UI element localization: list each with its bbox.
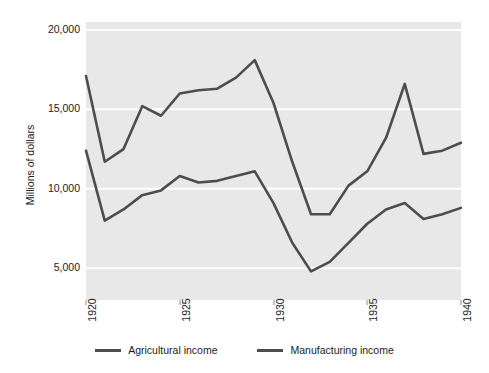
chart-legend: Agricultural income Manufacturing income bbox=[0, 344, 489, 356]
legend-item-agricultural-income: Agricultural income bbox=[95, 344, 217, 356]
series-line-manufacturing-income bbox=[86, 60, 461, 214]
x-axis-tick-label: 1930 bbox=[274, 298, 286, 321]
x-axis-tick-label: 1920 bbox=[86, 298, 98, 321]
series-line-agricultural-income bbox=[86, 151, 461, 272]
plot-area bbox=[0, 0, 489, 373]
line-chart: Millions of dollars 5,00010,00015,00020,… bbox=[0, 0, 489, 373]
legend-label: Manufacturing income bbox=[290, 344, 393, 356]
legend-swatch-icon bbox=[95, 349, 121, 352]
legend-label: Agricultural income bbox=[128, 344, 217, 356]
legend-swatch-icon bbox=[257, 349, 283, 352]
x-axis-tick-label: 1940 bbox=[461, 298, 473, 321]
legend-item-manufacturing-income: Manufacturing income bbox=[257, 344, 393, 356]
x-axis-tick-label: 1935 bbox=[367, 298, 379, 321]
x-axis-tick-label: 1925 bbox=[180, 298, 192, 321]
